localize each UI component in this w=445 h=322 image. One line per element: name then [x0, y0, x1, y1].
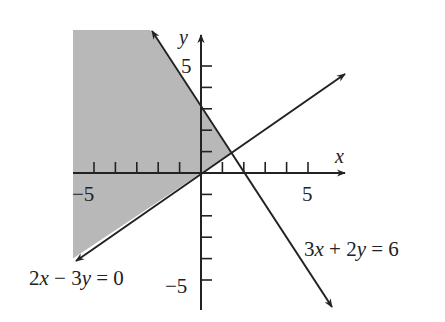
inequality-graph: x y −5 5 5 −5 3x + 2y = 6 2x − 3y = 0 — [0, 0, 445, 322]
x-tick-label-neg5: −5 — [72, 182, 94, 206]
equation-label-3x-2y-6: 3x + 2y = 6 — [304, 237, 399, 261]
y-axis-label: y — [177, 26, 188, 49]
shaded-region — [73, 30, 231, 259]
x-tick-label-5: 5 — [302, 182, 313, 206]
y-tick-label-5: 5 — [181, 54, 192, 78]
equation-label-2x-3y-0: 2x − 3y = 0 — [29, 266, 124, 290]
x-axis-label: x — [334, 145, 344, 167]
y-tick-label-neg5: −5 — [165, 274, 187, 298]
